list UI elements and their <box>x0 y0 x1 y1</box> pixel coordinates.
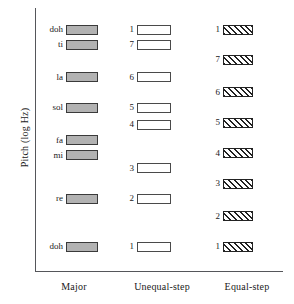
note-bar <box>137 242 171 252</box>
pitch-scale-figure: Pitch (log Hz) dohtilasolfamiredoh 17654… <box>0 0 294 304</box>
note-label: 3 <box>212 178 220 189</box>
column-equal-step: 17654321 <box>212 0 284 271</box>
note-bar <box>66 150 98 160</box>
note-row: re <box>40 193 102 204</box>
note-row: 6 <box>212 87 274 98</box>
note-label: 3 <box>126 163 134 174</box>
column-major: dohtilasolfamiredoh <box>40 0 112 271</box>
note-label: 1 <box>126 24 134 35</box>
note-label: 5 <box>126 102 134 113</box>
note-bar <box>137 103 171 113</box>
note-bar <box>223 211 253 221</box>
note-row: 7 <box>212 54 274 65</box>
note-bar <box>223 242 253 252</box>
note-label: 2 <box>126 193 134 204</box>
note-label: 1 <box>212 241 220 252</box>
note-row: 5 <box>212 117 274 128</box>
x-axis-labels: Major Unequal-step Equal-step <box>0 281 294 297</box>
x-axis-label-unequal-step: Unequal-step <box>122 281 202 292</box>
note-bar <box>223 55 253 65</box>
note-label: doh <box>40 24 63 35</box>
note-row: la <box>40 72 102 83</box>
note-bar <box>66 72 98 82</box>
note-label: fa <box>40 135 63 146</box>
note-bar <box>223 87 253 97</box>
note-bar <box>137 194 171 204</box>
note-row: doh <box>40 24 102 35</box>
note-bar <box>66 40 98 50</box>
note-label: sol <box>40 102 63 113</box>
note-row: 6 <box>126 72 188 83</box>
note-row: 7 <box>126 39 188 50</box>
note-row: 4 <box>126 119 188 130</box>
note-label: re <box>40 193 63 204</box>
note-bar <box>66 194 98 204</box>
note-bar <box>137 40 171 50</box>
note-bar <box>66 103 98 113</box>
note-bar <box>66 25 98 35</box>
note-row: 1 <box>212 24 274 35</box>
note-label: la <box>40 72 63 83</box>
note-bar <box>66 135 98 145</box>
note-label: 2 <box>212 211 220 222</box>
note-label: 1 <box>212 24 220 35</box>
note-label: mi <box>40 150 63 161</box>
note-row: doh <box>40 241 102 252</box>
note-label: 7 <box>126 39 134 50</box>
note-bar <box>66 242 98 252</box>
note-row: 1 <box>126 24 188 35</box>
note-label: 6 <box>126 72 134 83</box>
note-row: 4 <box>212 148 274 159</box>
note-bar <box>223 148 253 158</box>
note-bar <box>137 120 171 130</box>
note-row: 1 <box>212 241 274 252</box>
plot-area: dohtilasolfamiredoh 17654321 17654321 <box>0 0 294 271</box>
note-bar <box>223 25 253 35</box>
note-bar <box>137 25 171 35</box>
note-row: mi <box>40 150 102 161</box>
note-label: doh <box>40 241 63 252</box>
note-label: 4 <box>212 148 220 159</box>
note-bar <box>137 72 171 82</box>
note-row: 5 <box>126 102 188 113</box>
note-bar <box>223 118 253 128</box>
column-unequal-step: 17654321 <box>126 0 198 271</box>
note-row: 3 <box>212 178 274 189</box>
note-label: 6 <box>212 87 220 98</box>
x-axis-label-equal-step: Equal-step <box>208 281 286 292</box>
note-label: ti <box>40 39 63 50</box>
note-bar <box>223 179 253 189</box>
note-label: 7 <box>212 54 220 65</box>
note-row: 3 <box>126 163 188 174</box>
x-axis-label-major: Major <box>38 281 110 292</box>
note-bar <box>137 163 171 173</box>
note-row: fa <box>40 135 102 146</box>
note-row: 2 <box>126 193 188 204</box>
note-label: 1 <box>126 241 134 252</box>
note-row: 2 <box>212 211 274 222</box>
note-label: 5 <box>212 117 220 128</box>
note-row: 1 <box>126 241 188 252</box>
note-row: sol <box>40 102 102 113</box>
x-axis-line <box>35 271 283 272</box>
note-label: 4 <box>126 119 134 130</box>
note-row: ti <box>40 39 102 50</box>
